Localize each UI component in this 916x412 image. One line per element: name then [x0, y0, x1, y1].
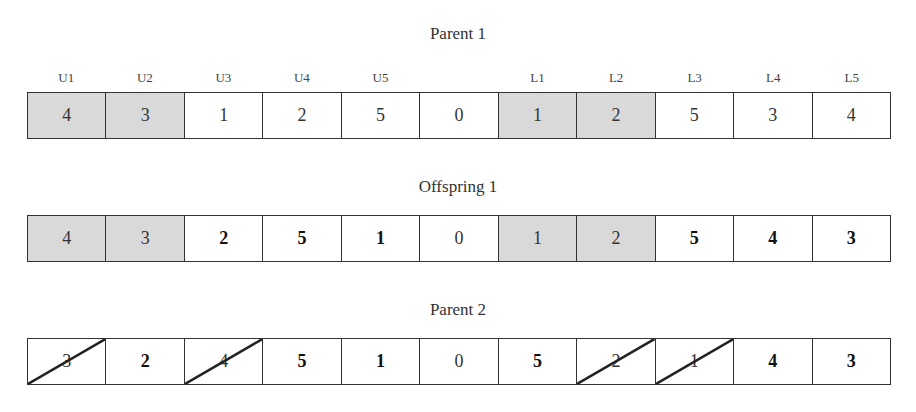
- gene-cell: 5: [655, 216, 733, 261]
- parent-2-chromosome: 32451052143: [27, 338, 891, 385]
- gene-value: 1: [219, 105, 228, 126]
- gene-value: 5: [690, 228, 699, 249]
- parent-1-chromosome: 43125012534: [27, 92, 891, 139]
- gene-cell: 3: [105, 93, 183, 138]
- gene-value: 5: [298, 351, 307, 372]
- gene-cell: 4: [812, 93, 890, 138]
- gene-value: 2: [141, 351, 150, 372]
- gene-cell: 2: [105, 339, 183, 384]
- strike-through-icon: [577, 339, 654, 384]
- gene-cell: 1: [655, 339, 733, 384]
- gene-value: 4: [768, 351, 777, 372]
- offspring-1-chromosome: 43251012543: [27, 215, 891, 262]
- gene-value: 4: [847, 105, 856, 126]
- gene-value: 4: [768, 228, 777, 249]
- offspring-1-title: Offspring 1: [0, 177, 916, 197]
- gene-cell: 1: [184, 93, 262, 138]
- gene-value: 0: [454, 228, 463, 249]
- gene-cell: 5: [262, 216, 340, 261]
- gene-cell: 2: [576, 93, 654, 138]
- label-l2: L2: [577, 70, 656, 86]
- label-u3: U3: [184, 70, 263, 86]
- gene-value: 0: [454, 351, 463, 372]
- gene-value: 5: [376, 105, 385, 126]
- gene-cell: 2: [576, 339, 654, 384]
- gene-value: 3: [768, 105, 777, 126]
- gene-cell: 1: [341, 216, 419, 261]
- label-l1: L1: [498, 70, 577, 86]
- strike-through-icon: [656, 339, 733, 384]
- gene-value: 3: [141, 228, 150, 249]
- gene-position-labels: U1 U2 U3 U4 U5 L1 L2 L3 L4 L5: [27, 70, 891, 86]
- gene-cell: 2: [184, 216, 262, 261]
- gene-value: 0: [454, 105, 463, 126]
- gene-cell: 0: [419, 339, 497, 384]
- gene-cell: 5: [262, 339, 340, 384]
- gene-cell: 3: [105, 216, 183, 261]
- gene-value: 1: [533, 228, 542, 249]
- gene-cell: 4: [28, 93, 105, 138]
- strike-through-icon: [28, 339, 105, 384]
- gene-cell: 2: [262, 93, 340, 138]
- gene-value: 3: [847, 351, 856, 372]
- gene-cell: 3: [812, 216, 890, 261]
- label-u5: U5: [341, 70, 420, 86]
- label-separator: [420, 70, 499, 86]
- gene-value: 2: [611, 105, 620, 126]
- gene-cell: 5: [341, 93, 419, 138]
- gene-cell: 1: [498, 93, 576, 138]
- gene-cell: 0: [419, 93, 497, 138]
- parent-1-title: Parent 1: [0, 24, 916, 44]
- label-l5: L5: [812, 70, 891, 86]
- gene-cell: 3: [28, 339, 105, 384]
- label-u1: U1: [27, 70, 106, 86]
- parent-2-title: Parent 2: [0, 300, 916, 320]
- gene-cell: 4: [733, 339, 811, 384]
- gene-value: 1: [533, 105, 542, 126]
- gene-value: 3: [141, 105, 150, 126]
- gene-cell: 3: [812, 339, 890, 384]
- gene-cell: 4: [733, 216, 811, 261]
- label-l4: L4: [734, 70, 813, 86]
- gene-value: 1: [376, 351, 385, 372]
- gene-value: 4: [62, 105, 71, 126]
- gene-value: 5: [533, 351, 542, 372]
- label-u2: U2: [106, 70, 185, 86]
- gene-cell: 4: [28, 216, 105, 261]
- label-u4: U4: [263, 70, 342, 86]
- gene-value: 2: [298, 105, 307, 126]
- gene-cell: 1: [341, 339, 419, 384]
- gene-value: 5: [690, 105, 699, 126]
- gene-value: 2: [219, 228, 228, 249]
- gene-cell: 3: [733, 93, 811, 138]
- gene-value: 5: [298, 228, 307, 249]
- gene-cell: 5: [498, 339, 576, 384]
- gene-value: 2: [611, 228, 620, 249]
- gene-value: 4: [62, 228, 71, 249]
- gene-cell: 4: [184, 339, 262, 384]
- gene-cell: 5: [655, 93, 733, 138]
- label-l3: L3: [655, 70, 734, 86]
- gene-cell: 1: [498, 216, 576, 261]
- gene-value: 1: [376, 228, 385, 249]
- strike-through-icon: [185, 339, 262, 384]
- gene-value: 3: [847, 228, 856, 249]
- gene-cell: 2: [576, 216, 654, 261]
- gene-cell: 0: [419, 216, 497, 261]
